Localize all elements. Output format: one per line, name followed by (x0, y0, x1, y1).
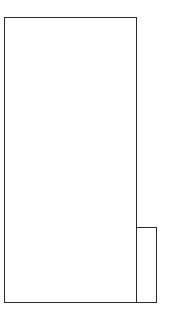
side-panel-rectangle (136, 227, 157, 303)
main-panel-rectangle (4, 17, 137, 303)
